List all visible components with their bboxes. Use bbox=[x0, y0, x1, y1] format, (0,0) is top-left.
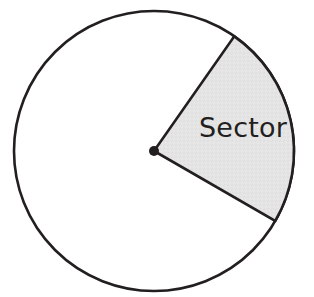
sector-label: Sector bbox=[199, 112, 288, 143]
circle-sector-figure: Sector bbox=[0, 0, 314, 297]
diagram-canvas: Sector bbox=[0, 0, 314, 297]
center-point-dot bbox=[149, 146, 159, 156]
